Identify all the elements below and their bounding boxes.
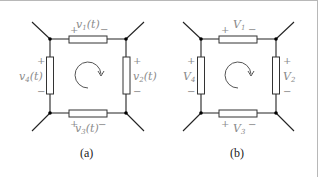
label-v1: v1(t): [76, 18, 100, 32]
resistor-2: [273, 57, 280, 94]
minus-sign: −: [100, 24, 108, 35]
node-dot: [199, 37, 203, 41]
node-dot: [124, 111, 128, 115]
minus-sign: −: [248, 119, 256, 130]
clockwise-loop-arrow-icon: [225, 62, 251, 88]
node-dot: [124, 37, 128, 41]
minus-sign: −: [248, 24, 256, 35]
lead-top-left: [32, 22, 50, 39]
plus-sign: +: [37, 55, 45, 66]
lead-top-right: [126, 22, 144, 39]
label-v4: v4(t): [19, 70, 43, 84]
minus-sign: −: [133, 86, 141, 97]
lead-top-right: [276, 22, 294, 39]
node-dot: [48, 37, 52, 41]
lead-top-left: [183, 22, 201, 39]
plus-sign: +: [187, 55, 195, 66]
label-V1: V1: [233, 18, 245, 32]
resistor-3: [219, 110, 257, 117]
resistor-3: [69, 110, 107, 117]
label-V2: V2: [283, 70, 296, 84]
resistor-4: [198, 57, 205, 94]
minus-sign: −: [37, 86, 45, 97]
panel-a: + v1(t) − + v2(t) − + v3(t) − + v4(t) − …: [19, 18, 157, 160]
clockwise-loop-arrow-icon: [75, 62, 101, 88]
plus-sign: +: [221, 118, 229, 129]
plus-sign: +: [283, 55, 291, 66]
node-dot: [274, 37, 278, 41]
label-V4: V4: [183, 70, 195, 84]
resistor-1: [69, 36, 107, 43]
resistor-1: [219, 36, 257, 43]
plus-sign: +: [133, 55, 141, 66]
lead-bottom-left: [32, 113, 50, 131]
lead-bottom-right: [276, 113, 294, 131]
resistor-2: [123, 57, 130, 94]
caption-b: (b): [230, 146, 244, 160]
circuit-figure: + v1(t) − + v2(t) − + v3(t) − + v4(t) − …: [0, 0, 320, 177]
caption-a: (a): [80, 146, 93, 160]
minus-sign: −: [187, 86, 195, 97]
node-dot: [274, 111, 278, 115]
panel-b: + V1 − + V2 − + V3 − + V4 − (b): [183, 18, 296, 160]
plus-sign: +: [221, 24, 229, 35]
resistor-4: [47, 57, 54, 94]
node-dot: [48, 111, 52, 115]
label-V3: V3: [233, 122, 246, 136]
minus-sign: −: [98, 119, 106, 130]
label-v2: v2(t): [133, 70, 157, 84]
minus-sign: −: [283, 86, 291, 97]
lead-bottom-left: [183, 113, 201, 131]
node-dot: [199, 111, 203, 115]
lead-bottom-right: [126, 113, 144, 131]
label-v3: v3(t): [75, 122, 99, 136]
